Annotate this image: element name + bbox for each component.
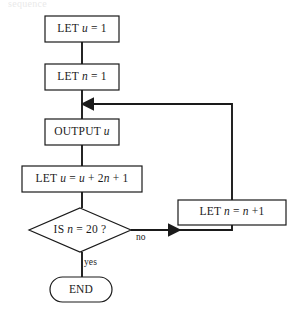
node-label-inc-p2: = [230, 205, 243, 217]
node-label-end-text: END [69, 283, 93, 295]
node-label-let-u-1-prefix: LET [57, 22, 82, 34]
edge-label-no: no [136, 233, 146, 243]
node-label-output-u-prefix: OUTPUT [54, 125, 103, 137]
node-label-inc-p0: LET [199, 205, 224, 217]
node-label-output-u-var: u [104, 125, 110, 137]
node-label-is-n-20: IS n = 20 ? [29, 224, 131, 236]
node-label-update-p2: = [66, 172, 79, 184]
node-label-update-p4: + 2 [85, 172, 104, 184]
node-label-let-n-increment: LET n = n +1 [178, 206, 286, 218]
node-label-update-p0: LET [36, 172, 61, 184]
flowchart-graphics [0, 0, 298, 309]
node-label-decision-p0: IS [54, 223, 68, 235]
node-label-inc-p4: +1 [249, 205, 265, 217]
node-label-update-p6: + 1 [110, 172, 129, 184]
node-label-let-n-1-suffix: = 1 [88, 70, 107, 82]
node-label-let-u-update: LET u = u + 2n + 1 [22, 173, 142, 185]
node-label-let-n-1-prefix: LET [57, 70, 82, 82]
node-label-let-n-1: LET n = 1 [45, 71, 119, 83]
node-label-let-u-1-suffix: = 1 [88, 22, 107, 34]
node-label-end: END [50, 284, 112, 296]
node-label-let-u-1: LET u = 1 [45, 23, 119, 35]
node-label-output-u: OUTPUT u [45, 126, 119, 138]
flowchart-canvas: sequence [0, 0, 298, 309]
node-label-decision-p2: = 20 ? [73, 223, 106, 235]
edge-label-yes: yes [84, 258, 97, 268]
